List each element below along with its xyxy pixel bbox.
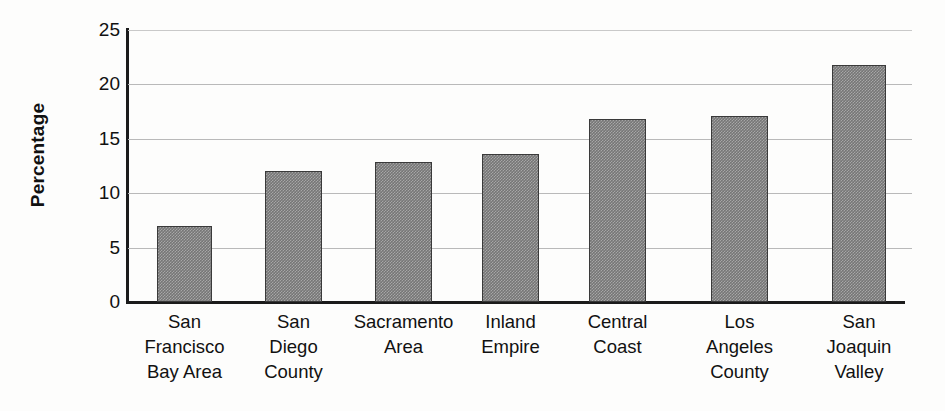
y-tick-label-25: 25	[84, 19, 120, 41]
y-axis-title-text: Percentage	[27, 103, 49, 207]
bar-chart-figure: Percentage 0510152025 SanFranciscoBay Ar…	[0, 0, 945, 411]
category-label-line: County	[219, 359, 369, 384]
y-tick-label-15: 15	[84, 128, 120, 150]
x-axis-category-labels: SanFranciscoBay AreaSanDiegoCountySacram…	[128, 309, 912, 409]
y-tick-label-20: 20	[84, 73, 120, 95]
bar-1	[157, 226, 212, 302]
bar-2	[265, 171, 322, 302]
y-tick-label-5: 5	[84, 237, 120, 259]
gridline-15	[128, 139, 912, 140]
category-label-line: Joaquin	[784, 334, 934, 359]
bar-6	[711, 116, 768, 302]
bar-4	[482, 154, 539, 302]
gridline-25	[128, 30, 912, 31]
category-label-7: SanJoaquinValley	[784, 309, 934, 384]
category-label-line: San	[784, 309, 934, 334]
y-tick-label-10: 10	[84, 182, 120, 204]
y-axis-title: Percentage	[18, 0, 58, 310]
category-label-line: Valley	[784, 359, 934, 384]
plot-area	[128, 30, 912, 302]
bar-5	[589, 119, 646, 302]
bar-7	[832, 65, 886, 302]
bar-3	[375, 162, 432, 302]
gridline-20	[128, 84, 912, 85]
